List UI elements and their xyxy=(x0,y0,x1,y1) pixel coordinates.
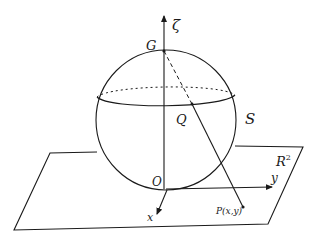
label-y: y xyxy=(270,171,278,185)
label-x: x xyxy=(147,211,154,224)
sphere-s xyxy=(96,50,236,190)
label-q: Q xyxy=(176,112,187,127)
label-p: P(x,y) xyxy=(215,206,243,216)
x-axis xyxy=(157,190,167,214)
riemann-sphere-diagram: ζ G Q S R2 O y x P(x,y) xyxy=(0,0,317,238)
equator-front xyxy=(97,95,235,106)
projection-line-dashed xyxy=(164,51,192,104)
label-s: S xyxy=(245,110,255,128)
projection-line-solid xyxy=(192,104,243,207)
label-zeta: ζ xyxy=(172,16,181,34)
label-r-base: R xyxy=(275,154,286,169)
point-g xyxy=(162,49,165,52)
label-g: G xyxy=(146,38,156,53)
point-q xyxy=(191,103,194,106)
label-r: R2 xyxy=(275,153,291,169)
label-r-exp: 2 xyxy=(286,153,291,162)
equator-back-dotted xyxy=(97,87,235,97)
label-o: O xyxy=(152,175,162,189)
